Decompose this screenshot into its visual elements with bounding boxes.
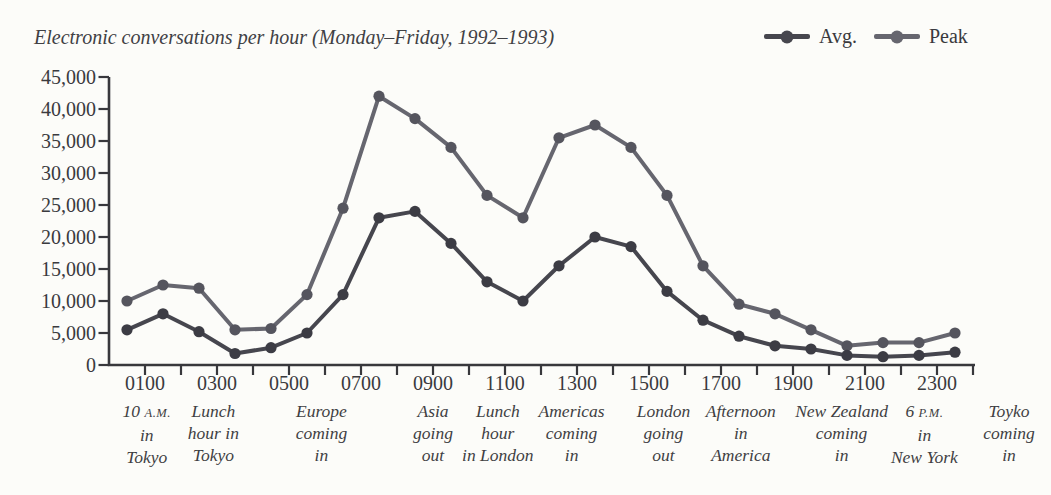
peak-data-point — [337, 203, 348, 214]
x-axis-annotation: Asiagoingout — [413, 400, 453, 466]
peak-data-point — [913, 337, 924, 348]
peak-data-point — [481, 190, 492, 201]
peak-series-line — [127, 96, 955, 346]
x-axis-annotation: Europecomingin — [296, 400, 348, 466]
avg-data-point — [913, 350, 924, 361]
peak-data-point — [877, 337, 888, 348]
avg-data-point — [193, 326, 204, 337]
x-tick-label: 0900 — [413, 372, 453, 395]
x-tick-label: 0300 — [197, 372, 237, 395]
x-tick-label: 1300 — [557, 372, 597, 395]
y-tick-label: 25,000 — [10, 192, 96, 218]
avg-data-point — [769, 340, 780, 351]
peak-data-point — [949, 327, 960, 338]
avg-data-point — [661, 286, 672, 297]
peak-data-point — [445, 142, 456, 153]
peak-data-point — [301, 289, 312, 300]
x-tick-label: 0100 — [125, 372, 165, 395]
axes — [109, 77, 975, 365]
avg-data-point — [877, 351, 888, 362]
y-tick-label: 35,000 — [10, 128, 96, 154]
avg-data-point — [409, 206, 420, 217]
avg-data-point — [805, 343, 816, 354]
x-axis-annotation: Londongoingout — [637, 400, 690, 466]
y-tick-label: 20,000 — [10, 224, 96, 250]
y-tick-label: 15,000 — [10, 256, 96, 282]
figure-electronic-conversations: Electronic conversations per hour (Monda… — [0, 0, 1051, 495]
avg-data-point — [121, 324, 132, 335]
peak-data-point — [265, 323, 276, 334]
peak-data-point — [589, 119, 600, 130]
y-tick-label: 0 — [10, 352, 96, 378]
x-tick-label: 1900 — [773, 372, 813, 395]
y-tick-label: 10,000 — [10, 288, 96, 314]
x-tick-label: 0500 — [269, 372, 309, 395]
avg-data-point — [949, 347, 960, 358]
peak-data-point — [193, 283, 204, 294]
peak-data-point — [517, 212, 528, 223]
y-tick-label: 40,000 — [10, 96, 96, 122]
avg-data-point — [697, 315, 708, 326]
avg-data-point — [301, 327, 312, 338]
y-tick-label: 30,000 — [10, 160, 96, 186]
peak-data-point — [553, 132, 564, 143]
y-tick-label: 45,000 — [10, 64, 96, 90]
x-tick-label: 2300 — [917, 372, 957, 395]
peak-data-point — [229, 324, 240, 335]
x-tick-label: 1700 — [701, 372, 741, 395]
avg-data-point — [265, 342, 276, 353]
avg-data-point — [733, 331, 744, 342]
avg-data-point — [553, 260, 564, 271]
y-tick-label: 5,000 — [10, 320, 96, 346]
x-axis-annotation: AfternooninAmerica — [706, 400, 776, 466]
peak-data-point — [697, 260, 708, 271]
avg-data-point — [229, 348, 240, 359]
avg-data-point — [841, 350, 852, 361]
x-axis-annotation: 10 A.M.inTokyo — [123, 400, 171, 468]
avg-data-point — [157, 308, 168, 319]
avg-data-point — [517, 295, 528, 306]
peak-data-point — [841, 340, 852, 351]
avg-data-point — [481, 276, 492, 287]
avg-data-point — [445, 238, 456, 249]
peak-data-point — [121, 295, 132, 306]
avg-data-point — [337, 289, 348, 300]
x-tick-label: 0700 — [341, 372, 381, 395]
peak-data-point — [805, 324, 816, 335]
peak-data-point — [769, 308, 780, 319]
peak-data-point — [661, 190, 672, 201]
x-axis-annotation: Americascomingin — [539, 400, 605, 466]
x-axis-annotation: 6 P.M.inNew York — [891, 400, 958, 468]
x-axis-annotation: Lunchhour inTokyo — [188, 400, 239, 466]
avg-series-line — [127, 211, 955, 356]
x-tick-label: 2100 — [845, 372, 885, 395]
x-axis-annotation: New Zealandcomingin — [795, 400, 888, 466]
peak-data-point — [625, 142, 636, 153]
peak-data-point — [373, 91, 384, 102]
x-tick-label: 1100 — [485, 372, 524, 395]
avg-data-point — [625, 241, 636, 252]
avg-data-point — [589, 231, 600, 242]
peak-data-point — [409, 113, 420, 124]
x-tick-label: 1500 — [629, 372, 669, 395]
x-axis-annotation: Toykocomingin — [983, 400, 1035, 466]
peak-data-point — [733, 299, 744, 310]
x-axis-annotation: Lunchhourin London — [462, 400, 533, 466]
peak-data-point — [157, 279, 168, 290]
avg-data-point — [373, 212, 384, 223]
